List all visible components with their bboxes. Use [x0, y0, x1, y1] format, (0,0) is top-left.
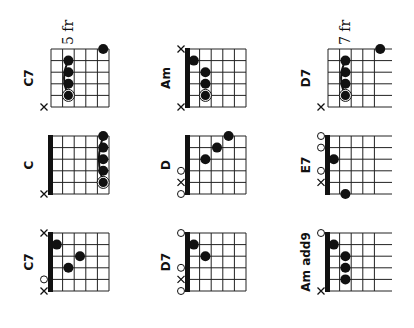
nut	[185, 135, 190, 195]
muted-string-icon	[318, 104, 325, 111]
open-string-icon	[318, 230, 325, 237]
muted-string-icon	[41, 191, 48, 198]
chord-diagram-c7: C7	[22, 230, 109, 295]
finger-dot	[200, 67, 210, 77]
fret-position-label: 5 fr	[60, 19, 76, 45]
finger-dot	[212, 143, 222, 153]
root-note-dot	[341, 91, 350, 100]
finger-dot	[340, 189, 350, 199]
finger-dot	[329, 154, 339, 164]
nut	[325, 232, 330, 292]
finger-dot	[63, 263, 73, 273]
finger-dot	[329, 240, 339, 250]
nut	[185, 232, 190, 292]
root-note-dot	[99, 178, 108, 187]
finger-dot	[52, 240, 62, 250]
finger-dot	[98, 166, 108, 176]
muted-string-icon	[178, 104, 185, 111]
open-string-icon	[318, 167, 325, 174]
nut	[185, 48, 190, 108]
finger-dot	[200, 154, 210, 164]
open-string-icon	[178, 288, 185, 295]
open-string-icon	[178, 230, 185, 237]
nut	[325, 135, 330, 195]
open-string-icon	[178, 167, 185, 174]
finger-dot	[340, 79, 350, 89]
muted-string-icon	[318, 288, 325, 295]
finger-dot	[63, 56, 73, 66]
root-note-dot	[64, 91, 73, 100]
chord-name: Am add9	[299, 232, 313, 292]
open-string-icon	[178, 191, 185, 198]
finger-dot	[200, 79, 210, 89]
finger-dot	[224, 131, 234, 141]
finger-dot	[98, 143, 108, 153]
chord-chart: C75 frAmD77 frCDE7C7D7Am add9	[0, 0, 414, 328]
finger-dot	[200, 251, 210, 261]
chord-name: Am	[159, 67, 173, 89]
finger-dot	[75, 251, 85, 261]
chord-diagram-c: C	[22, 131, 109, 198]
nut	[48, 135, 53, 195]
chord-diagram-d7: D77 fr	[299, 19, 392, 110]
finger-dot	[340, 56, 350, 66]
finger-dot	[98, 154, 108, 164]
finger-dot	[375, 44, 385, 54]
chord-name: C7	[22, 253, 36, 270]
fret-position-label: 7 fr	[337, 19, 353, 45]
finger-dot	[340, 67, 350, 77]
finger-dot	[189, 240, 199, 250]
finger-dot	[340, 251, 350, 261]
open-string-icon	[318, 133, 325, 140]
muted-string-icon	[41, 288, 48, 295]
muted-string-icon	[318, 179, 325, 186]
chord-diagram-am: Am	[159, 46, 246, 111]
open-string-icon	[318, 144, 325, 151]
chord-diagram-e7: E7	[299, 133, 392, 200]
muted-string-icon	[178, 276, 185, 283]
root-note-dot	[201, 91, 210, 100]
chord-diagram-d: D	[159, 131, 246, 198]
chord-name: D7	[299, 69, 313, 87]
chord-name: D	[159, 160, 173, 170]
finger-dot	[63, 67, 73, 77]
chord-name: D7	[159, 253, 173, 271]
chord-name: E7	[299, 157, 313, 174]
chord-diagram-am-add9: Am add9	[299, 230, 392, 295]
muted-string-icon	[41, 230, 48, 237]
muted-string-icon	[178, 179, 185, 186]
finger-dot	[340, 274, 350, 284]
chord-name: C	[22, 160, 36, 169]
muted-string-icon	[41, 104, 48, 111]
chord-diagram-c7: C75 fr	[22, 19, 109, 110]
finger-dot	[98, 131, 108, 141]
chord-diagram-d7: D7	[159, 230, 246, 295]
finger-dot	[63, 79, 73, 89]
nut	[48, 232, 53, 292]
muted-string-icon	[178, 46, 185, 53]
open-string-icon	[178, 264, 185, 271]
chord-name: C7	[22, 69, 36, 86]
finger-dot	[189, 56, 199, 66]
finger-dot	[98, 44, 108, 54]
finger-dot	[340, 263, 350, 273]
open-string-icon	[41, 276, 48, 283]
